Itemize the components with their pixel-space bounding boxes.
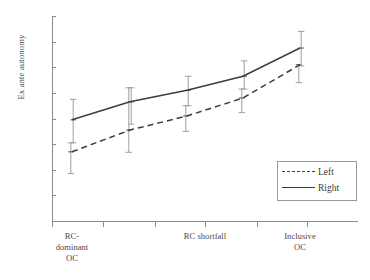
legend-label-right: Right: [318, 181, 339, 195]
legend-item-right: Right: [282, 181, 352, 195]
legend-label-left: Left: [318, 165, 334, 179]
legend-solid-line-icon: [282, 187, 315, 188]
legend-dashed-line-icon: [282, 171, 315, 172]
chart-legend: Left Right: [277, 161, 357, 201]
legend-item-left: Left: [282, 165, 352, 179]
chart-figure: Ex ante autonomy 0.80.70.60.50.40.30.20.…: [0, 0, 370, 280]
plot-area: [0, 0, 370, 280]
